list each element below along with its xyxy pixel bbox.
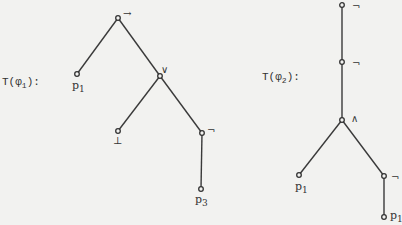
label-neg: ¬ <box>207 124 215 135</box>
label-p1: p1 <box>72 79 85 94</box>
edge-and-neg3 <box>342 120 384 176</box>
tree-phi-2: T(φ2): ¬ ¬ ∧ p1 ¬ p1 <box>262 0 402 224</box>
edge-root-or <box>118 18 160 76</box>
node-root <box>116 16 121 21</box>
label-or: ∨ <box>161 64 168 75</box>
node-p1b <box>382 215 387 220</box>
label-neg1: ¬ <box>352 0 360 11</box>
node-p1 <box>75 72 80 77</box>
label-neg2: ¬ <box>352 57 360 68</box>
label-p1b: p1 <box>390 209 402 224</box>
edge-root-p1 <box>77 18 118 74</box>
edge-or-neg <box>160 76 202 133</box>
node-p1a <box>297 173 302 178</box>
edge-or-bot <box>118 76 160 131</box>
node-neg <box>200 131 205 136</box>
label-neg3: ¬ <box>391 171 399 182</box>
formula-trees-diagram: T(φ1): → p1 ∨ ⊥ ¬ p3 T(φ2): <box>0 0 402 225</box>
node-and <box>340 118 345 123</box>
node-neg3 <box>382 174 387 179</box>
node-neg1 <box>340 3 345 8</box>
tree-2-title: T(φ2): <box>262 71 300 85</box>
label-implies: → <box>123 8 132 19</box>
label-bot: ⊥ <box>113 135 122 146</box>
node-p3 <box>199 187 204 192</box>
tree-1-title: T(φ1): <box>2 76 40 90</box>
label-and: ∧ <box>351 113 358 124</box>
node-bot <box>116 129 121 134</box>
edge-and-p1a <box>299 120 342 175</box>
edge-neg-p3 <box>201 133 202 189</box>
label-p1a: p1 <box>295 180 308 195</box>
node-neg2 <box>340 60 345 65</box>
tree-phi-1: T(φ1): → p1 ∨ ⊥ ¬ p3 <box>2 8 215 208</box>
label-p3: p3 <box>195 193 208 208</box>
